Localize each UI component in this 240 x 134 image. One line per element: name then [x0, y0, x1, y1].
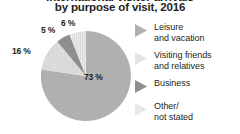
legend-item-other: Other/ not stated: [134, 101, 240, 122]
chart-legend: Leisure and vacation Visiting friends an…: [134, 22, 240, 134]
page-title: by purpose of visit, 2016: [0, 1, 240, 13]
legend-item-leisure: Leisure and vacation: [134, 22, 240, 43]
pie-label-leisure: 73 %: [84, 72, 103, 82]
chart-figure: International visitor arrivals by purpos…: [0, 0, 240, 134]
pie-label-visiting: 16 %: [12, 46, 31, 56]
legend-label-leisure: Leisure and vacation: [154, 22, 204, 43]
legend-item-visiting: Visiting friends and relatives: [134, 50, 240, 71]
pie-svg: [8, 16, 136, 134]
triangle-right-icon: [134, 23, 148, 38]
triangle-right-icon: [134, 102, 148, 117]
legend-label-business: Business: [154, 78, 190, 89]
triangle-right-icon: [134, 79, 148, 94]
triangle-right-icon: [134, 51, 148, 66]
legend-label-visiting: Visiting friends and relatives: [154, 50, 212, 71]
pie-label-business: 5 %: [41, 25, 55, 35]
pie-chart: 73 % 16 % 5 % 6 %: [8, 16, 136, 134]
chart-title-block: International visitor arrivals by purpos…: [0, 0, 240, 16]
legend-label-other: Other/ not stated: [154, 101, 193, 122]
pie-label-other: 6 %: [61, 18, 75, 28]
legend-item-business: Business: [134, 78, 240, 94]
